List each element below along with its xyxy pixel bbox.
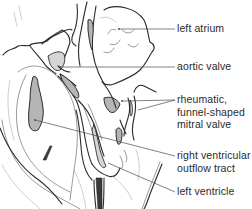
label-line: rheumatic, (177, 93, 245, 106)
label-mitral-valve: rheumatic, funnel-shaped mitral valve (177, 93, 245, 131)
label-line: left atrium (177, 22, 224, 35)
rv-outflow-shaded-region (29, 76, 44, 130)
label-line: left ventricle (177, 185, 234, 198)
left-atrium-drawing (100, 7, 154, 85)
label-line: outflow tract (177, 162, 250, 175)
septum-drawing (58, 74, 120, 209)
trabecula-mark (43, 146, 52, 160)
leader-left-ventricle (108, 163, 175, 192)
label-line: aortic valve (177, 60, 231, 73)
right-ventricle-outline (18, 29, 77, 200)
label-left-atrium: left atrium (177, 22, 224, 35)
label-aortic-valve: aortic valve (177, 60, 231, 73)
label-line: funnel-shaped (177, 106, 245, 119)
label-rv-outflow-tract: right ventricular outflow tract (177, 149, 250, 174)
leader-rv-outflow-tract (35, 120, 175, 156)
label-left-ventricle: left ventricle (177, 185, 234, 198)
aorta-structures (42, 2, 104, 86)
label-line: right ventricular (177, 149, 250, 162)
label-line: mitral valve (177, 118, 245, 131)
left-ventricle-drawing (74, 150, 162, 209)
anatomical-diagram: left atrium aortic valve rheumatic, funn… (0, 0, 252, 209)
leader-mitral-valve-b (138, 100, 175, 110)
